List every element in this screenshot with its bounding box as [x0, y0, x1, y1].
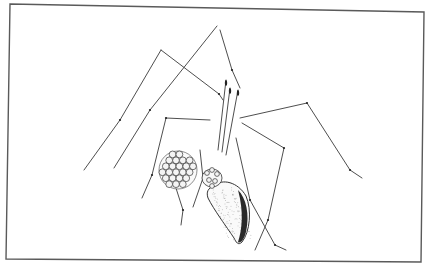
- stipple-dot: [226, 208, 227, 209]
- stipple-dot: [223, 219, 224, 220]
- stipple-dot: [221, 219, 222, 220]
- leg-joint: [283, 147, 285, 149]
- stipple-dot: [223, 197, 224, 198]
- stipple-dot: [238, 225, 239, 226]
- stipple-dot: [216, 205, 217, 206]
- stipple-dot: [241, 223, 242, 224]
- spider-body: [202, 168, 251, 244]
- stipple-dot: [231, 234, 232, 235]
- left-lower-leg: [175, 185, 183, 225]
- stipple-dot: [248, 231, 249, 232]
- palp-tip: [229, 88, 231, 94]
- stipple-dot: [228, 214, 229, 215]
- leg-joint: [165, 117, 167, 119]
- stipple-dot: [219, 210, 220, 211]
- stipple-dot: [235, 199, 236, 200]
- stipple-dot: [238, 206, 239, 207]
- palp-2: [222, 88, 230, 152]
- stipple-dot: [227, 206, 228, 207]
- stipple-dot: [225, 215, 226, 216]
- stipple-dot: [228, 212, 229, 213]
- stipple-dot: [212, 194, 213, 195]
- stipple-dot: [237, 210, 238, 211]
- leg-joint: [249, 199, 251, 201]
- stipple-dot: [230, 223, 231, 224]
- stipple-dot: [239, 215, 240, 216]
- stipple-dot: [231, 190, 232, 191]
- stipple-dot: [234, 201, 235, 202]
- leg-joint: [151, 174, 153, 176]
- egg: [179, 181, 186, 188]
- stipple-dot: [229, 220, 230, 221]
- leg-joint: [149, 109, 151, 111]
- stipple-dot: [227, 221, 228, 222]
- stipple-dot: [226, 223, 227, 224]
- stipple-dot: [225, 227, 226, 228]
- egg-sac: [159, 151, 197, 189]
- stipple-dot: [224, 194, 225, 195]
- stipple-dot: [233, 236, 234, 237]
- stipple-dot: [236, 205, 237, 206]
- stipple-dot: [236, 218, 237, 219]
- stipple-dot: [239, 211, 240, 212]
- leg-joint: [231, 69, 233, 71]
- palp-3: [226, 90, 238, 155]
- stipple-dot: [224, 217, 225, 218]
- stipple-dot: [222, 190, 223, 191]
- leg-joint: [182, 209, 184, 211]
- palp-tip: [225, 80, 227, 86]
- stipple-dot: [219, 208, 220, 209]
- stipple-dot: [234, 233, 235, 234]
- stipple-dot: [250, 235, 251, 236]
- stipple-dot: [215, 193, 216, 194]
- coxa-segment: [207, 178, 212, 183]
- stipple-dot: [239, 218, 240, 219]
- stipple-dot: [223, 215, 224, 216]
- stipple-dot: [217, 199, 218, 200]
- stipple-dot: [216, 201, 217, 202]
- spider-illustration: [0, 0, 430, 265]
- spider-palps: [218, 80, 239, 155]
- palp-1: [218, 80, 226, 150]
- stipple-dot: [222, 193, 223, 194]
- stipple-dot: [221, 213, 222, 214]
- stipple-dot: [224, 225, 225, 226]
- stipple-dot: [222, 221, 223, 222]
- stipple-dot: [215, 196, 216, 197]
- leg-joint: [274, 244, 276, 246]
- stipple-dot: [240, 219, 241, 220]
- stipple-dot: [241, 215, 242, 216]
- stipple-dot: [233, 239, 234, 240]
- stipple-dot: [236, 204, 237, 205]
- stipple-dot: [234, 211, 235, 212]
- egg: [173, 181, 180, 188]
- leg-joint: [349, 169, 351, 171]
- stipple-dot: [217, 202, 218, 203]
- stipple-dot: [226, 206, 227, 207]
- stipple-dot: [238, 211, 239, 212]
- stipple-dot: [233, 191, 234, 192]
- stipple-dot: [231, 223, 232, 224]
- coxa-segment: [210, 168, 215, 173]
- stipple-dot: [229, 202, 230, 203]
- stipple-dot: [230, 209, 231, 210]
- stipple-dot: [220, 216, 221, 217]
- stipple-dot: [235, 219, 236, 220]
- leg-joint: [119, 119, 121, 121]
- stipple-dot: [214, 194, 215, 195]
- stipple-dot: [233, 195, 234, 196]
- coxa-segment: [205, 171, 210, 176]
- stipple-dot: [247, 231, 248, 232]
- stipple-dot: [213, 189, 214, 190]
- stipple-dot: [232, 228, 233, 229]
- stipple-dot: [227, 214, 228, 215]
- stipple-dot: [230, 231, 231, 232]
- stipple-dot: [232, 231, 233, 232]
- palp-tip: [237, 90, 239, 96]
- stipple-dot: [228, 202, 229, 203]
- leg-joint: [218, 93, 220, 95]
- stipple-dot: [224, 198, 225, 199]
- coxa-segment: [210, 184, 215, 189]
- stipple-dot: [214, 196, 215, 197]
- illustration-canvas: [0, 0, 430, 265]
